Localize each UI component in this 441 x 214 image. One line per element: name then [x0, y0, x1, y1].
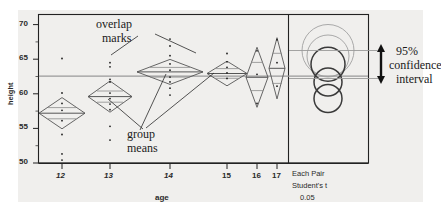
x-tick-14: 14 [164, 172, 173, 180]
y-tick-50: 50 [10, 158, 28, 166]
group-diamond-16 [246, 47, 268, 107]
legend-each-pair: Each Pair [292, 170, 325, 178]
data-points-15 [226, 53, 228, 80]
x-axis-title: age [155, 194, 169, 202]
group-diamond-13 [88, 81, 132, 112]
annotation-ci-line1: 95% [396, 45, 418, 58]
group-diamond-12 [39, 98, 85, 129]
y-axis-title: height [7, 83, 15, 106]
y-axis-ticks [33, 25, 39, 163]
legend-students-t: Student's t [292, 182, 327, 190]
annotation-overlap-marks-line1: overlap [96, 18, 132, 31]
data-points-17 [276, 39, 278, 87]
x-tick-12: 12 [56, 172, 65, 180]
annotation-ci-line2: confidence [389, 59, 441, 72]
annotation-leaders [108, 34, 214, 130]
y-tick-55: 55 [10, 123, 28, 131]
y-tick-70: 70 [10, 20, 28, 28]
x-tick-17: 17 [272, 172, 281, 180]
x-tick-15: 15 [222, 172, 231, 180]
comparison-circle-5 [314, 85, 342, 113]
x-tick-16: 16 [252, 172, 261, 180]
x-tick-13: 13 [104, 172, 113, 180]
comparison-circles [302, 25, 354, 113]
legend-alpha: 0.05 [300, 194, 315, 202]
y-tick-65: 65 [10, 54, 28, 62]
annotation-group-means-line1: group [127, 128, 155, 141]
annotation-overlap-marks-line2: marks [102, 32, 131, 45]
group-diamond-17 [269, 38, 285, 99]
annotation-group-means-line2: means [127, 142, 158, 155]
confidence-interval-arrow [377, 44, 385, 84]
data-points-12 [61, 58, 63, 161]
figure-root: 50 55 60 65 70 height 12 13 14 15 16 17 … [0, 0, 441, 214]
annotation-ci-line3: interval [396, 73, 433, 86]
oneway-anova-diamond-plot [0, 0, 441, 214]
